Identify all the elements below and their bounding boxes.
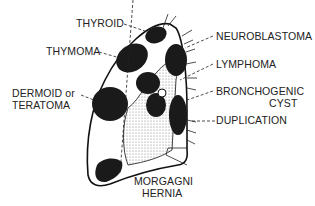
label-morgagni-line1: MORGAGNI	[134, 176, 193, 187]
label-duplication: DUPLICATION	[216, 115, 287, 126]
label-dermoid-line2: TERATOMA	[12, 100, 70, 111]
lymphoma-mass	[136, 72, 160, 94]
neuroblastoma-mass	[165, 44, 187, 76]
label-dermoid-line1: DERMOID or	[12, 88, 75, 99]
label-morgagni-line2: HERNIA	[142, 188, 182, 199]
dermoid-mass	[92, 87, 128, 121]
label-neuroblastoma: NEUROBLASTOMA	[216, 31, 312, 42]
bronchogenic-cyst	[158, 89, 166, 97]
label-bronchogenic-line1: BRONCHOGENIC	[216, 86, 304, 97]
label-bronchogenic-line2: CYST	[269, 98, 297, 109]
label-thyroid: THYROID	[76, 18, 124, 29]
label-lymphoma: LYMPHOMA	[216, 59, 276, 70]
duplication-mass	[169, 95, 187, 135]
label-thymoma: THYMOMA	[46, 46, 100, 57]
